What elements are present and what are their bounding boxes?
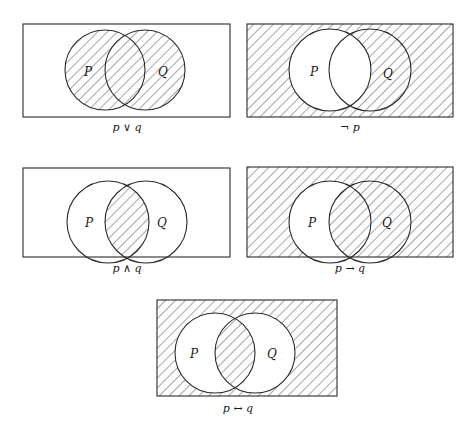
shaded-region <box>247 24 453 117</box>
shaded-region <box>247 167 453 257</box>
set-q-label: Q <box>158 65 168 79</box>
caption-negation: ¬ p <box>340 121 360 134</box>
set-p-label: P <box>189 347 199 361</box>
set-q-label: Q <box>382 216 392 230</box>
set-p-label: P <box>309 65 319 79</box>
set-q-label: Q <box>157 216 167 230</box>
caption-biconditional: p ↔ q <box>223 402 253 415</box>
diagram-negation: P Q ¬ p <box>247 24 453 134</box>
set-p-label: P <box>307 216 317 230</box>
set-p-label: P <box>84 216 94 230</box>
diagram-conditional: P Q p → q <box>247 167 453 275</box>
caption-conjunction: p ∧ q <box>112 262 141 275</box>
diagram-biconditional: P Q p ↔ q <box>157 300 337 415</box>
caption-disjunction: p ∨ q <box>112 121 141 134</box>
set-p-label: P <box>83 65 93 79</box>
diagram-conjunction: P Q p ∧ q <box>23 168 230 275</box>
venn-diagram-figure: P Q p ∨ q P Q ¬ p P Q p ∧ q <box>0 0 473 431</box>
caption-conditional: p → q <box>335 262 365 275</box>
set-q-label: Q <box>383 67 393 81</box>
diagram-disjunction: P Q p ∨ q <box>23 24 230 134</box>
set-q-label: Q <box>267 347 277 361</box>
